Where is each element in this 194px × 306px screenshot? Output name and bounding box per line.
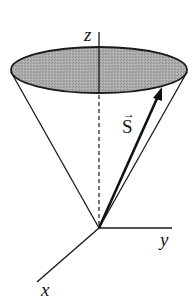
cone-left-side xyxy=(11,72,99,228)
vector-s-label: → S xyxy=(122,117,133,136)
y-axis-label: y xyxy=(160,230,168,249)
cone-right-side xyxy=(99,72,187,228)
x-axis xyxy=(37,228,99,282)
cone-diagram: z y x → S xyxy=(0,0,194,306)
x-axis-label: x xyxy=(41,280,49,299)
z-axis-label: z xyxy=(84,25,91,44)
vector-s-arrowhead xyxy=(153,87,162,101)
diagram-graphics xyxy=(0,0,194,306)
vector-arrow-icon: → xyxy=(123,108,135,120)
